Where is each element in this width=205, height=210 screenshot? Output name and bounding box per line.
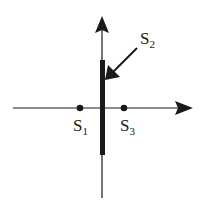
thick-segment-s2 xyxy=(100,60,105,155)
point-s3 xyxy=(121,105,128,112)
label-s3: S3 xyxy=(120,116,135,137)
s2-pointer-line xyxy=(113,48,137,72)
label-s1: S1 xyxy=(73,116,88,137)
point-s1 xyxy=(77,105,84,112)
coordinate-diagram: S1 S3 S2 xyxy=(0,0,205,210)
label-s2: S2 xyxy=(140,29,155,50)
